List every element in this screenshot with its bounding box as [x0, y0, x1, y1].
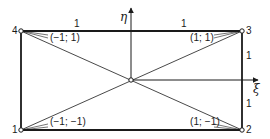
node-2-coords: (1; −1): [190, 117, 220, 127]
node-number-4: 4: [12, 26, 18, 36]
edge-length-right-upper: 1: [246, 51, 252, 61]
node-number-1: 1: [12, 125, 18, 135]
node-3-marker: [240, 29, 244, 33]
edge-length-right-lower: 1: [246, 99, 252, 109]
node-number-2: 2: [246, 125, 252, 135]
edge-length-top-left: 1: [74, 19, 80, 29]
reference-element-diagram: [0, 0, 270, 139]
node-4-coords: (−1; 1): [50, 33, 80, 43]
node-3-coords: (1; 1): [190, 33, 214, 43]
node-1-coords: (−1; −1): [50, 117, 86, 127]
node-4-marker: [19, 29, 23, 33]
xi-axis-label: ξ: [253, 84, 260, 94]
node-number-3: 3: [246, 26, 252, 36]
center-node-marker: [129, 78, 133, 82]
edge-length-top-right: 1: [181, 19, 187, 29]
node-1-marker: [19, 128, 23, 132]
node-2-marker: [240, 128, 244, 132]
coordinate-axes: [131, 8, 258, 80]
eta-axis-label: η: [120, 12, 127, 22]
